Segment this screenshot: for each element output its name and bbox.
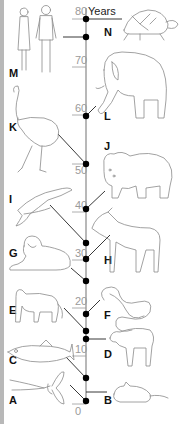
dot-L [83,113,89,119]
tick-80: 80 [75,5,87,17]
letter-A: A [9,394,17,406]
fish-icon [8,340,74,362]
dot-M [83,34,89,40]
humans-icon [18,6,56,73]
letter-D: D [104,348,112,360]
timeline-svg: 80 Years 70 60 50 40 30 20 10 0 [0,0,185,424]
letter-J: J [104,140,110,152]
lion-icon [10,236,71,270]
cat-icon [16,290,63,322]
dot-C [83,375,89,381]
dot-A [83,398,89,404]
albatross-icon [16,188,72,226]
tick-60: 60 [75,102,87,114]
letter-K: K [9,121,17,133]
letter-F: F [104,309,111,321]
dot-K [83,161,89,167]
letter-M: M [9,67,18,79]
dot-I [83,240,89,246]
letter-N: N [104,26,112,38]
lifespan-diagram: 80 Years 70 60 50 40 30 20 10 0 [0,0,185,424]
dot-D [83,336,89,342]
letter-E: E [9,304,16,316]
dot-H [83,256,89,262]
axis-title: Years [88,5,116,17]
mouse-icon [114,382,168,402]
letter-L: L [104,110,111,122]
tick-20: 20 [75,295,87,307]
illustrations [8,6,178,405]
hippo-icon [104,152,172,198]
ostrich-icon [14,86,59,172]
dot-G [83,278,89,284]
tick-0: 0 [75,405,81,417]
insect-icon [10,372,64,404]
tick-10: 10 [75,343,87,355]
letter-G: G [9,247,18,259]
letter-B: B [104,394,112,406]
dot-F [83,311,89,317]
elephant-icon [96,52,166,118]
dot-N [83,16,89,22]
letter-I: I [9,193,12,205]
horse-icon [92,208,160,272]
sheep-icon [110,328,154,366]
letter-H: H [104,254,112,266]
dot-E [83,328,89,334]
dot-J [83,206,89,212]
tortoise-icon [124,10,178,40]
tick-70: 70 [75,54,87,66]
